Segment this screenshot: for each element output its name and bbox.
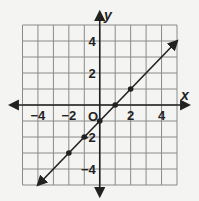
svg-text:−2: −2: [61, 108, 76, 123]
svg-text:−4: −4: [31, 108, 47, 123]
coordinate-plane: −4−22442−2−4 x y O: [0, 0, 199, 201]
svg-text:4: 4: [158, 108, 166, 123]
svg-text:2: 2: [127, 108, 134, 123]
svg-text:−4: −4: [81, 162, 97, 177]
axes: [10, 12, 189, 196]
y-axis-label: y: [103, 7, 113, 23]
data-line: [38, 41, 177, 185]
x-axis-label: x: [180, 87, 190, 103]
svg-text:4: 4: [89, 34, 97, 49]
svg-text:2: 2: [89, 66, 96, 81]
origin-label: O: [88, 109, 98, 124]
